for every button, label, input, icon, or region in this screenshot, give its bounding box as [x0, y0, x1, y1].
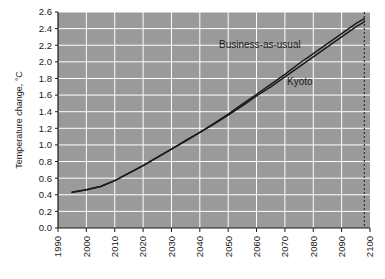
y-tick-label: 1.2 — [39, 123, 52, 134]
x-tick-label: 1990 — [52, 236, 63, 257]
x-tick-label: 2010 — [109, 236, 120, 257]
x-tick-label: 2030 — [166, 236, 177, 257]
y-tick-label: 0.2 — [39, 206, 52, 217]
y-tick-label: 1.6 — [39, 89, 52, 100]
y-tick-label: 0.4 — [39, 189, 52, 200]
y-axis-title: Temperature change, °C — [14, 71, 24, 169]
x-tick-label: 2050 — [223, 236, 234, 257]
x-tick-label: 2080 — [308, 236, 319, 257]
y-tick-label: 1.4 — [39, 106, 52, 117]
y-tick-label: 1.8 — [39, 73, 52, 84]
x-tick-label: 2020 — [137, 236, 148, 257]
y-tick-label: 1.0 — [39, 139, 52, 150]
y-tick-label: 0.0 — [39, 222, 52, 233]
y-tick-label: 2.2 — [39, 40, 52, 51]
x-tick-label: 2060 — [251, 236, 262, 257]
series-label-kyoto: Kyoto — [287, 76, 313, 87]
y-tick-label: 0.6 — [39, 173, 52, 184]
chart-canvas: 0.00.20.40.60.81.01.21.41.61.82.02.22.42… — [0, 0, 385, 279]
x-tick-label: 2040 — [194, 236, 205, 257]
x-tick-label: 2090 — [336, 236, 347, 257]
y-tick-label: 2.4 — [39, 23, 52, 34]
y-tick-label: 2.6 — [39, 6, 52, 17]
series-label-business-as-usual: Business-as-usual — [219, 39, 301, 50]
y-tick-label: 2.0 — [39, 56, 52, 67]
temperature-change-chart: 0.00.20.40.60.81.01.21.41.61.82.02.22.42… — [0, 0, 385, 279]
y-tick-label: 0.8 — [39, 156, 52, 167]
x-tick-label: 2070 — [279, 236, 290, 257]
x-tick-label: 2100 — [364, 236, 375, 257]
x-tick-label: 2000 — [81, 236, 92, 257]
plot-area-background — [58, 12, 370, 228]
